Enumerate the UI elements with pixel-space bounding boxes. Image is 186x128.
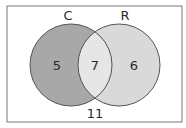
set-r-label: R bbox=[120, 9, 129, 22]
c-only-value: 5 bbox=[53, 59, 61, 72]
outside-value: 11 bbox=[87, 107, 104, 120]
intersection-value: 7 bbox=[91, 59, 99, 72]
set-c-label: C bbox=[63, 9, 72, 22]
r-only-value: 6 bbox=[130, 59, 138, 72]
